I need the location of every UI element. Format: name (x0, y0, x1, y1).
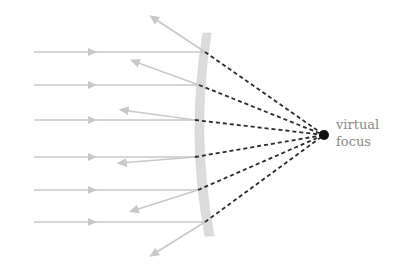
reflected-ray (122, 110, 195, 120)
virtual-extension-lines (195, 52, 324, 222)
virtual-focus-label: virtual focus (336, 116, 379, 150)
reflected-ray (120, 157, 195, 163)
reflected-ray (152, 17, 205, 52)
reflected-ray (132, 190, 198, 211)
ray-arrow-icon (88, 116, 97, 124)
dashed-extension (205, 135, 324, 222)
reflected-ray (133, 61, 199, 85)
ray-arrow-icon (88, 48, 97, 56)
label-line-virtual: virtual (336, 116, 379, 133)
ray-arrow-icon (88, 186, 97, 194)
dashed-extension (195, 135, 324, 157)
incoming-rays (34, 48, 205, 226)
convex-mirror-diagram: virtual focus (0, 0, 419, 268)
reflected-ray (152, 222, 205, 255)
virtual-focus-point (319, 130, 329, 140)
convex-mirror (195, 33, 214, 236)
ray-arrow-icon (88, 153, 97, 161)
ray-arrow-icon (88, 81, 97, 89)
dashed-extension (198, 135, 324, 190)
ray-arrow-icon (88, 218, 97, 226)
dashed-extension (205, 52, 324, 135)
label-line-focus: focus (336, 133, 379, 150)
